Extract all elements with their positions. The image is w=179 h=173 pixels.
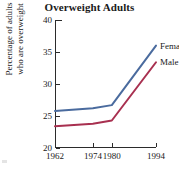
y-tick-label: 40 bbox=[43, 15, 52, 25]
y-tick bbox=[56, 148, 60, 149]
x-tick-label: 1974 bbox=[84, 151, 102, 161]
chart-container: Overweight Adults Percentage of adults w… bbox=[0, 0, 179, 173]
page-artifact bbox=[2, 160, 7, 163]
x-tick-label: 1994 bbox=[147, 151, 165, 161]
x-tick-label: 1962 bbox=[46, 151, 64, 161]
series-label-female: Female bbox=[160, 41, 179, 51]
x-tick-label: 1980 bbox=[103, 151, 121, 161]
y-tick-label: 25 bbox=[43, 111, 52, 121]
y-tick-label: 35 bbox=[43, 47, 52, 57]
series-line-male bbox=[55, 62, 156, 126]
series-layer bbox=[55, 20, 156, 148]
plot-area: 2025303540 1962197419801994 FemaleMale bbox=[55, 20, 156, 148]
y-tick-label: 30 bbox=[43, 79, 52, 89]
series-label-male: Male bbox=[160, 57, 179, 67]
x-tick bbox=[156, 143, 157, 147]
y-axis-title-line1: Percentage of adults bbox=[4, 3, 15, 76]
y-axis-title-line2: who are overweight bbox=[15, 3, 26, 74]
y-axis-title: Percentage of adults who are overweight bbox=[2, 0, 28, 101]
series-line-female bbox=[55, 46, 156, 111]
